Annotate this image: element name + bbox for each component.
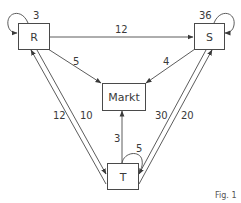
label-t-self: 5 (136, 143, 142, 154)
edge-s-to-t (139, 50, 206, 174)
node-markt: Markt (103, 84, 146, 111)
node-t-label: T (119, 171, 127, 184)
node-r-label: R (30, 31, 38, 44)
label-r-to-markt: 5 (73, 56, 79, 67)
edge-r-to-t (37, 50, 106, 174)
node-r: R (19, 24, 50, 50)
node-s: S (195, 24, 225, 50)
label-r-to-t: 10 (80, 110, 93, 121)
label-t-to-s: 20 (181, 110, 194, 121)
label-s-to-t: 30 (155, 110, 168, 121)
flow-diagram: R S Markt T 3 36 5 12 5 4 3 12 10 30 20 … (0, 0, 241, 203)
edge-t-to-s (139, 50, 212, 184)
node-t: T (108, 164, 139, 190)
label-s-self: 36 (199, 10, 212, 21)
label-r-to-s: 12 (115, 24, 128, 35)
figure-caption: Fig. 1 (215, 191, 237, 200)
label-t-to-r: 12 (53, 110, 66, 121)
node-markt-label: Markt (108, 91, 140, 104)
edge-t-to-r (31, 50, 106, 184)
node-s-label: S (206, 31, 213, 44)
edge-s-to-markt (146, 49, 195, 83)
label-r-self: 3 (33, 10, 39, 21)
label-s-to-markt: 4 (163, 56, 169, 67)
label-t-to-markt: 3 (114, 133, 120, 144)
